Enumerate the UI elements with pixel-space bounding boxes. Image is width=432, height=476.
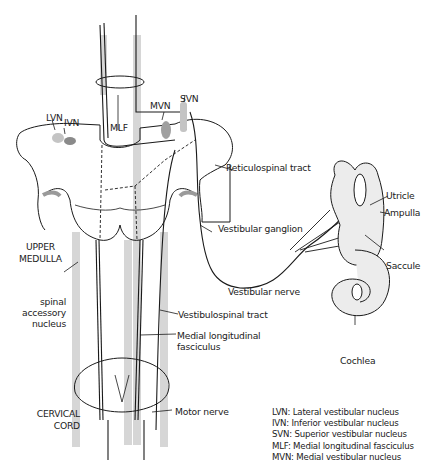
label-cervical-1: CERVICAL	[24, 408, 80, 419]
legend-item: SVN: Superior vestibular nucleus	[272, 429, 414, 440]
label-cervical-2: CORD	[24, 420, 80, 431]
label-spinal-1: spinal	[30, 296, 66, 307]
label-spinal-3: nucleus	[18, 318, 66, 329]
label-lvn: LVN	[46, 112, 63, 123]
legend-item: IVN: Inferior vestibular nucleus	[272, 418, 414, 429]
tract-bands	[72, 35, 168, 447]
label-utricle: Utricle	[386, 190, 415, 201]
label-ampulla: Ampulla	[384, 207, 420, 218]
legend-item: LVN: Lateral vestibular nucleus	[272, 407, 414, 418]
label-vestibular-ganglion: Vestibular ganglion	[218, 223, 303, 234]
label-upper-medulla-2: MEDULLA	[19, 253, 62, 264]
label-mlf: MLF	[110, 122, 128, 133]
label-svn: SVN	[180, 93, 198, 104]
label-motor-nerve: Motor nerve	[175, 406, 229, 417]
label-spinal-2: accessory	[18, 307, 66, 318]
legend-item: MLF: Medial longitudinal fasciculus	[272, 441, 414, 452]
vestibular-pathway-diagram: LVN IVN MLF MVN SVN Reticulospinal tract…	[0, 0, 432, 476]
abbreviation-legend: LVN: Lateral vestibular nucleus IVN: Inf…	[272, 407, 414, 463]
label-mvn: MVN	[150, 100, 171, 111]
labyrinth	[331, 161, 390, 316]
label-mlf-long-2: fasciculus	[177, 341, 220, 352]
label-reticulospinal-tract: Reticulospinal tract	[226, 162, 311, 173]
label-mlf-long-1: Medial longitudinal	[177, 330, 260, 341]
label-cochlea: Cochlea	[340, 355, 375, 366]
label-vestibular-nerve: Vestibular nerve	[228, 286, 300, 297]
label-upper-medulla-1: UPPER	[26, 241, 55, 252]
legend-item: MVN: Medial vestibular nucleus	[272, 452, 414, 463]
label-ivn: IVN	[64, 117, 79, 128]
label-saccule: Saccule	[386, 260, 420, 271]
label-vestibulospinal-tract: Vestibulospinal tract	[178, 309, 268, 320]
diagram-artwork	[0, 0, 432, 476]
